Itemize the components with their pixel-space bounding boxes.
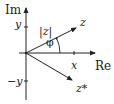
conjugate-label: z* <box>76 83 87 94</box>
tick-y-label: y <box>15 19 21 30</box>
z-label: z <box>80 17 86 28</box>
complex-plane-diagram: Im Re y −y x |z| φ z z* <box>0 0 114 104</box>
real-axis-label: Re <box>95 60 111 72</box>
angle-arc <box>57 38 61 53</box>
tick-neg-y-label: −y <box>7 76 22 87</box>
angle-arc-dot <box>56 38 58 40</box>
conjugate-vector <box>26 53 72 80</box>
tick-x-label: x <box>71 60 77 71</box>
imaginary-axis-label: Im <box>5 4 21 16</box>
origin-point <box>25 52 27 54</box>
angle-label: φ <box>46 37 54 48</box>
